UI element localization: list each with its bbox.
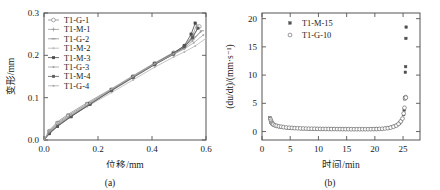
x-tick-label: 0.6 [200, 144, 212, 154]
chart-b-frame [262, 13, 420, 140]
data-marker [401, 117, 405, 121]
data-marker [193, 42, 195, 44]
data-marker [205, 37, 207, 39]
data-marker [52, 18, 56, 22]
data-marker [403, 106, 407, 110]
y-tick-label: 15 [248, 42, 258, 52]
data-marker [52, 56, 55, 59]
data-marker [52, 75, 55, 78]
data-marker [404, 96, 408, 100]
data-marker [132, 76, 134, 78]
legend-label: T1-G-3 [64, 63, 89, 72]
y-axis-title: (du/dt)/(mm·s⁻¹) [225, 44, 236, 108]
legend-label: T1-M-2 [64, 44, 91, 53]
y-tick-label: 10 [248, 70, 258, 80]
y-tick-label: 0.0 [28, 135, 40, 145]
legend-label: T1-M-15 [302, 19, 333, 28]
chart-a-canvas: 0.00.20.40.60.00.10.20.3位移/mm变形/mmT1-G-1… [0, 0, 220, 168]
data-marker [194, 22, 197, 25]
data-marker [173, 56, 175, 58]
x-tick-label: 25 [399, 144, 409, 154]
x-tick-label: 10 [314, 144, 324, 154]
data-marker [57, 123, 59, 125]
data-marker [89, 102, 91, 104]
y-tick-label: 0 [253, 127, 258, 137]
x-axis-title: 位移/mm [106, 159, 144, 168]
data-marker [194, 45, 196, 47]
data-marker [404, 71, 407, 74]
legend-label: T1-M-1 [64, 25, 91, 34]
panel-b-caption: (b) [220, 178, 440, 188]
chart-b-canvas: 051015202505101520时间/min(du/dt)/(mm·s⁻¹)… [220, 0, 440, 168]
y-tick-label: 0.2 [28, 50, 39, 60]
x-tick-label: 15 [342, 144, 352, 154]
data-marker [405, 26, 408, 29]
x-tick-label: 5 [288, 144, 293, 154]
data-marker [52, 27, 56, 31]
data-marker [183, 48, 185, 50]
legend-label: T1-G-1 [64, 16, 89, 25]
data-marker [200, 31, 202, 33]
legend-label: T1-G-4 [64, 82, 90, 91]
data-marker [53, 66, 55, 68]
data-marker [192, 40, 194, 42]
chart-b-legend: T1-M-15T1-G-10 [288, 19, 333, 40]
panel-a: 0.00.20.40.60.00.10.20.3位移/mm变形/mmT1-G-1… [0, 0, 220, 190]
data-marker [154, 66, 156, 68]
x-tick-label: 0.4 [146, 144, 158, 154]
x-tick-label: 0.0 [38, 144, 50, 154]
panel-b: 051015202505101520时间/min(du/dt)/(mm·s⁻¹)… [220, 0, 440, 190]
data-marker [197, 27, 200, 30]
data-marker [53, 85, 55, 87]
series-T1-M-15 [269, 26, 408, 131]
data-marker [288, 33, 292, 37]
y-tick-label: 0.1 [28, 93, 39, 103]
data-marker [154, 63, 156, 65]
y-axis-title: 变形/mm [5, 57, 16, 95]
x-tick-label: 20 [370, 144, 380, 154]
data-marker [111, 88, 113, 90]
data-marker [70, 114, 72, 116]
data-marker [404, 65, 407, 68]
data-marker [48, 131, 50, 133]
legend-label: T1-M-4 [64, 72, 91, 81]
panel-a-caption: (a) [0, 178, 220, 188]
data-marker [132, 79, 134, 81]
data-marker [402, 112, 406, 116]
series-T1-G-10 [269, 95, 408, 131]
data-marker [405, 37, 408, 40]
data-marker [289, 22, 292, 25]
x-tick-label: 0.2 [92, 144, 103, 154]
x-tick-label: 0 [260, 144, 265, 154]
y-tick-label: 0.3 [28, 8, 40, 18]
data-marker [183, 51, 185, 53]
legend-label: T1-G-10 [302, 31, 331, 40]
y-tick-label: 5 [253, 98, 258, 108]
y-tick-label: 20 [248, 14, 258, 24]
data-marker [191, 36, 194, 39]
data-marker [190, 33, 193, 36]
legend-label: T1-G-2 [64, 35, 89, 44]
chart-a-legend: T1-G-1T1-M-1T1-G-2T1-M-2T1-M-3T1-G-3T1-M… [48, 16, 91, 91]
data-marker [173, 53, 175, 55]
data-marker [202, 34, 204, 36]
legend-label: T1-M-3 [64, 54, 91, 63]
data-marker [53, 47, 55, 49]
x-axis-title: 时间/min [322, 159, 360, 168]
figure-container: 0.00.20.40.60.00.10.20.3位移/mm变形/mmT1-G-1… [0, 0, 440, 190]
